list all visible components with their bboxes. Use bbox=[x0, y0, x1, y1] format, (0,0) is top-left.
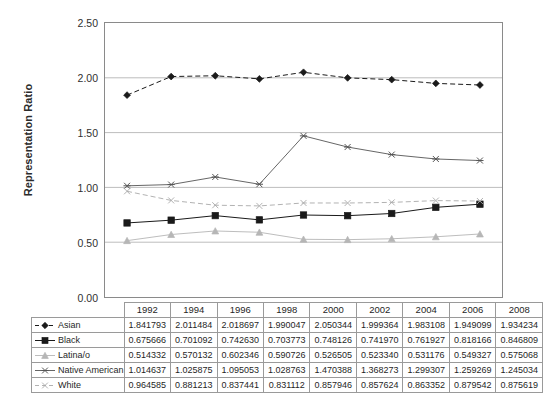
table-cell: 1.990047 bbox=[263, 318, 309, 333]
table-cell: 1.028763 bbox=[263, 363, 309, 378]
table-cell: 1.245034 bbox=[496, 363, 543, 378]
legend-entry-native-american: Native American bbox=[32, 363, 125, 378]
table-row: Asian1.8417932.0114842.0186971.9900472.0… bbox=[32, 318, 543, 333]
legend-entry-black: Black bbox=[32, 333, 125, 348]
table-cell: 0.742630 bbox=[217, 333, 263, 348]
table-cell: 1.949099 bbox=[449, 318, 495, 333]
table-cell: 0.964585 bbox=[124, 378, 170, 393]
table-year-header: 1992 bbox=[124, 303, 170, 318]
table-cell: 1.470388 bbox=[310, 363, 356, 378]
table-cell: 0.514332 bbox=[124, 348, 170, 363]
table-cell: 0.703773 bbox=[263, 333, 309, 348]
y-axis-tick-labels: 2.50 2.00 1.50 1.00 0.50 0.00 bbox=[48, 0, 98, 310]
table-year-header: 2008 bbox=[496, 303, 543, 318]
chart-figure: Representation Ratio 2.50 2.00 1.50 1.00… bbox=[0, 0, 543, 408]
table-cell: 1.999364 bbox=[356, 318, 402, 333]
y-tick-250: 2.50 bbox=[52, 18, 98, 29]
table-row: White0.9645850.8812130.8374410.8311120.8… bbox=[32, 378, 543, 393]
table-cell: 0.748126 bbox=[310, 333, 356, 348]
table-year-header: 2002 bbox=[356, 303, 402, 318]
table-cell: 0.531176 bbox=[403, 348, 449, 363]
legend-label: Black bbox=[58, 336, 80, 345]
table-cell: 0.875619 bbox=[496, 378, 543, 393]
legend-entry-white: White bbox=[32, 378, 125, 393]
y-tick-100: 1.00 bbox=[52, 183, 98, 194]
table-cell: 1.368273 bbox=[356, 363, 402, 378]
table-cell: 2.018697 bbox=[217, 318, 263, 333]
table-year-header: 1996 bbox=[217, 303, 263, 318]
table-cell: 0.818166 bbox=[449, 333, 495, 348]
table-cell: 1.299307 bbox=[403, 363, 449, 378]
square-marker-icon bbox=[34, 335, 56, 346]
table-cell: 0.761927 bbox=[403, 333, 449, 348]
legend-label: Native American bbox=[58, 366, 124, 375]
table-cell: 0.602346 bbox=[217, 348, 263, 363]
table-cell: 0.675666 bbox=[124, 333, 170, 348]
table-cell: 0.570132 bbox=[171, 348, 217, 363]
y-axis-title: Representation Ratio bbox=[22, 65, 34, 215]
table-year-header: 1994 bbox=[171, 303, 217, 318]
legend-label: Latina/o bbox=[58, 351, 90, 360]
table-cell: 0.837441 bbox=[217, 378, 263, 393]
table-year-header: 2000 bbox=[310, 303, 356, 318]
table-row: Black0.6756660.7010920.7426300.7037730.7… bbox=[32, 333, 543, 348]
y-tick-050: 0.50 bbox=[52, 238, 98, 249]
legend-entry-latina-o: Latina/o bbox=[32, 348, 125, 363]
y-tick-150: 1.50 bbox=[52, 128, 98, 139]
table-cell: 0.879542 bbox=[449, 378, 495, 393]
legend-entry-asian: Asian bbox=[32, 318, 125, 333]
table-cell: 0.863352 bbox=[403, 378, 449, 393]
table-cell: 1.983108 bbox=[403, 318, 449, 333]
x-marker-icon bbox=[34, 380, 56, 391]
table-row: Native American1.0146371.0258751.0950531… bbox=[32, 363, 543, 378]
table-cell: 0.526505 bbox=[310, 348, 356, 363]
table-corner-cell bbox=[32, 303, 125, 318]
triangle-marker-icon bbox=[34, 350, 56, 361]
table-cell: 2.011484 bbox=[171, 318, 217, 333]
table-cell: 1.025875 bbox=[171, 363, 217, 378]
table-cell: 1.934234 bbox=[496, 318, 543, 333]
diamond-marker-icon bbox=[34, 320, 56, 331]
table-year-header: 2004 bbox=[403, 303, 449, 318]
table-cell: 2.050344 bbox=[310, 318, 356, 333]
table-year-header: 1998 bbox=[263, 303, 309, 318]
table-cell: 1.841793 bbox=[124, 318, 170, 333]
data-table: 199219941996199820002002200420062008 Asi… bbox=[31, 302, 543, 393]
table-cell: 1.095053 bbox=[217, 363, 263, 378]
legend-label: White bbox=[58, 381, 81, 390]
legend-label: Asian bbox=[58, 321, 81, 330]
table-cell: 0.549327 bbox=[449, 348, 495, 363]
y-tick-200: 2.00 bbox=[52, 73, 98, 84]
table-header-row: 199219941996199820002002200420062008 bbox=[32, 303, 543, 318]
table-cell: 0.846809 bbox=[496, 333, 543, 348]
table-year-header: 2006 bbox=[449, 303, 495, 318]
table-body: Asian1.8417932.0114842.0186971.9900472.0… bbox=[32, 318, 543, 393]
x-star-marker-icon bbox=[34, 365, 56, 376]
table-cell: 0.523340 bbox=[356, 348, 402, 363]
table-cell: 0.590726 bbox=[263, 348, 309, 363]
table-row: Latina/o0.5143320.5701320.6023460.590726… bbox=[32, 348, 543, 363]
table-cell: 0.857624 bbox=[356, 378, 402, 393]
table-cell: 1.259269 bbox=[449, 363, 495, 378]
plot-canvas bbox=[105, 23, 502, 297]
table-cell: 0.741970 bbox=[356, 333, 402, 348]
table-cell: 1.014637 bbox=[124, 363, 170, 378]
table-cell: 0.575068 bbox=[496, 348, 543, 363]
table-cell: 0.857946 bbox=[310, 378, 356, 393]
plot-area bbox=[104, 22, 503, 298]
table-cell: 0.831112 bbox=[263, 378, 309, 393]
table-cell: 0.881213 bbox=[171, 378, 217, 393]
y-axis-title-container: Representation Ratio bbox=[14, 0, 44, 300]
table-cell: 0.701092 bbox=[171, 333, 217, 348]
